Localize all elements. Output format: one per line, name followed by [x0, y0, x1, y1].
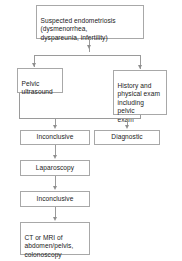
node-inconclusive-second-label: Inconclusive	[24, 195, 86, 203]
edge-laparoscopy-to-inconclusive2-arrowhead	[53, 186, 57, 190]
edge-merge-bar	[19, 118, 141, 119]
edge-inconclusive1-to-laparoscopy-arrowhead	[53, 155, 57, 159]
node-suspected-endometriosis-label: Suspected endometriosis (dysmenorrhea, d…	[41, 17, 116, 41]
node-laparoscopy-label: Laparoscopy	[24, 164, 86, 172]
edge-suspected-stem-arrowhead	[87, 45, 91, 49]
node-inconclusive-first: Inconclusive	[20, 130, 90, 145]
node-history-physical-exam-label: History and physical exam including pelv…	[118, 82, 160, 123]
edge-inconclusive2-to-ctmri-arrowhead	[53, 217, 57, 221]
edge-to-diagnostic-arrowhead	[125, 125, 129, 129]
flowchart-canvas: Suspected endometriosis (dysmenorrhea, d…	[0, 0, 182, 261]
edge-split-bar	[34, 55, 141, 56]
edge-split-right-arrowhead	[138, 65, 142, 69]
node-laparoscopy: Laparoscopy	[20, 160, 90, 176]
edge-ultrasound-drop	[19, 93, 20, 118]
node-diagnostic-label: Diagnostic	[98, 133, 156, 141]
node-ct-mri-colonoscopy: CT or MRI of abdomen/pelvis, colonoscopy	[20, 222, 90, 255]
edge-split-left-arrowhead	[32, 63, 36, 67]
node-pelvic-ultrasound-label: Pelvic ultrasound	[22, 80, 53, 95]
node-inconclusive-first-label: Inconclusive	[24, 133, 86, 141]
node-inconclusive-second: Inconclusive	[20, 191, 90, 207]
node-pelvic-ultrasound: Pelvic ultrasound	[17, 68, 63, 93]
node-diagnostic: Diagnostic	[94, 130, 160, 145]
node-suspected-endometriosis: Suspected endometriosis (dysmenorrhea, d…	[36, 5, 144, 39]
edge-to-inconclusive-1-arrowhead	[53, 125, 57, 129]
node-history-physical-exam: History and physical exam including pelv…	[113, 70, 167, 115]
node-ct-mri-colonoscopy-label: CT or MRI of abdomen/pelvis, colonoscopy	[25, 234, 74, 258]
